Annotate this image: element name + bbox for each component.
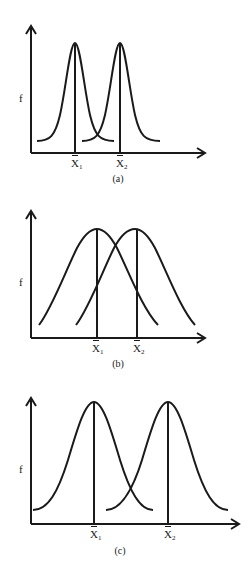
panel-caption: (c) xyxy=(100,545,140,556)
panel-caption: (a) xyxy=(98,173,138,184)
mean-label-2: X2 xyxy=(116,158,127,171)
y-axis-label: f xyxy=(19,277,23,288)
panel-c: f X1 X2 (c) xyxy=(0,380,250,579)
panel-b: f X1 X2 (b) xyxy=(0,190,250,380)
mean-label-1: X1 xyxy=(90,529,101,542)
mean-label-2: X2 xyxy=(133,343,144,356)
y-axis-label: f xyxy=(19,464,23,475)
mean-label-1: X1 xyxy=(92,343,103,356)
distribution-curve-1 xyxy=(39,229,158,325)
mean-label-1: X1 xyxy=(71,158,82,171)
distribution-curve-2 xyxy=(76,229,195,325)
panel-b-plot xyxy=(0,190,250,380)
panel-a: f X1 X2 (a) xyxy=(0,0,250,190)
panel-caption: (b) xyxy=(98,358,138,369)
mean-label-2: X2 xyxy=(164,529,175,542)
y-axis-label: f xyxy=(19,93,23,104)
